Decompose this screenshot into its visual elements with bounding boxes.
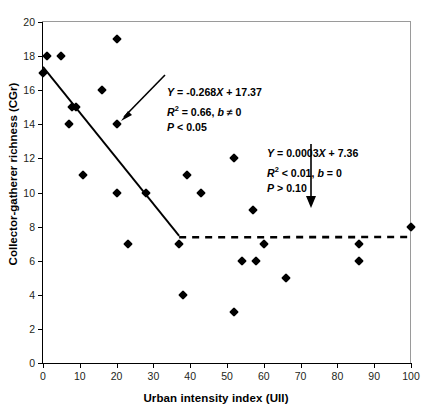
x-tick-label: 40 bbox=[184, 371, 196, 382]
y-tick-label: 0 bbox=[29, 358, 35, 369]
x-axis-title: Urban intensity index (UII) bbox=[0, 392, 432, 404]
y-tick-label: 18 bbox=[23, 51, 35, 62]
x-tick bbox=[227, 363, 228, 368]
y-tick-label: 6 bbox=[29, 255, 35, 266]
x-tick bbox=[43, 363, 44, 368]
y-tick-label: 16 bbox=[23, 85, 35, 96]
y-tick-label: 12 bbox=[23, 153, 35, 164]
y-tick-label: 2 bbox=[29, 324, 35, 335]
x-tick bbox=[411, 363, 412, 368]
y-axis-title: Collector-gatherer richness (CGr) bbox=[7, 24, 19, 324]
x-tick-label: 60 bbox=[258, 371, 270, 382]
y-tick-label: 10 bbox=[23, 187, 35, 198]
solid-eq-line1: Y = -0.268X + 17.37 bbox=[167, 85, 262, 101]
solid-eq-line2: R2 = 0.66, b ≠ 0 bbox=[167, 101, 262, 120]
x-tick bbox=[264, 363, 265, 368]
y-tick-label: 4 bbox=[29, 290, 35, 301]
x-tick bbox=[301, 363, 302, 368]
scatter-chart-figure: 02468101214161820 0102030405060708090100… bbox=[0, 0, 432, 419]
x-tick bbox=[153, 363, 154, 368]
x-tick-label: 30 bbox=[148, 371, 160, 382]
annotation-arrow-solid bbox=[121, 75, 165, 121]
x-tick-label: 0 bbox=[40, 371, 46, 382]
dashed-eq-line3: P > 0.10 bbox=[267, 181, 358, 197]
x-tick-label: 80 bbox=[332, 371, 344, 382]
x-tick-label: 70 bbox=[295, 371, 307, 382]
x-tick-label: 50 bbox=[221, 371, 233, 382]
dashed-eq-line1: Y = 0.0003X + 7.36 bbox=[267, 146, 358, 162]
x-tick bbox=[374, 363, 375, 368]
x-tick-label: 10 bbox=[74, 371, 86, 382]
solid-eq-line3: P < 0.05 bbox=[167, 120, 262, 136]
solid-line-annotation: Y = -0.268X + 17.37 R2 = 0.66, b ≠ 0 P <… bbox=[167, 85, 262, 135]
solid-regression-line bbox=[43, 67, 179, 236]
x-tick-label: 90 bbox=[368, 371, 380, 382]
x-tick bbox=[337, 363, 338, 368]
x-tick bbox=[190, 363, 191, 368]
y-tick-label: 8 bbox=[29, 221, 35, 232]
dashed-line-annotation: Y = 0.0003X + 7.36 R2 < 0.01, b = 0 P > … bbox=[267, 146, 358, 196]
y-tick-label: 20 bbox=[23, 17, 35, 28]
y-tick-label: 14 bbox=[23, 119, 35, 130]
dashed-eq-line2: R2 < 0.01, b = 0 bbox=[267, 162, 358, 181]
x-tick-label: 100 bbox=[402, 371, 420, 382]
x-tick bbox=[80, 363, 81, 368]
x-tick bbox=[117, 363, 118, 368]
x-tick-label: 20 bbox=[111, 371, 123, 382]
